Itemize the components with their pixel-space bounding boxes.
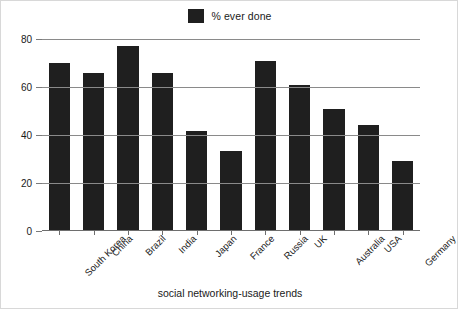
gridline-20 — [42, 183, 420, 184]
gridline-80 — [42, 39, 420, 40]
bar-south-korea[interactable] — [49, 63, 70, 231]
y-tick-mark-20 — [36, 183, 42, 184]
x-label-france: France — [248, 233, 277, 262]
y-tick-label-20: 20 — [6, 178, 32, 189]
x-label-japan: Japan — [212, 233, 238, 259]
y-tick-label-80: 80 — [6, 34, 32, 45]
legend-swatch-icon — [188, 9, 204, 23]
gridline-60 — [42, 87, 420, 88]
bar-brazil[interactable] — [117, 46, 138, 231]
bar-china[interactable] — [83, 73, 104, 231]
x-label-russia: Russia — [282, 233, 310, 261]
y-tick-label-40: 40 — [6, 130, 32, 141]
x-axis-category-labels: South KoreaChinaBrazilIndiaJapanFranceRu… — [42, 233, 420, 283]
y-tick-mark-80 — [36, 39, 42, 40]
y-tick-mark-60 — [36, 87, 42, 88]
x-label-germany: Germany — [422, 233, 457, 268]
bar-india[interactable] — [152, 73, 173, 231]
x-label-australia: Australia — [353, 233, 387, 267]
x-label-china: China — [109, 233, 134, 258]
x-label-brazil: Brazil — [143, 233, 168, 258]
legend-label: % ever done — [211, 10, 271, 22]
bar-japan[interactable] — [186, 131, 207, 231]
gridline-40 — [42, 135, 420, 136]
y-tick-mark-40 — [36, 135, 42, 136]
x-axis-title: social networking-usage trends — [1, 287, 458, 299]
bar-france[interactable] — [220, 151, 241, 231]
bar-uk[interactable] — [289, 85, 310, 231]
plot-area: 020406080 — [42, 39, 420, 231]
bar-australia[interactable] — [323, 109, 344, 231]
bar-usa[interactable] — [358, 125, 379, 231]
y-tick-label-60: 60 — [6, 82, 32, 93]
bar-germany[interactable] — [392, 161, 413, 231]
chart-legend: % ever done — [1, 9, 458, 23]
x-label-india: India — [176, 233, 198, 255]
y-tick-mark-0 — [36, 231, 42, 232]
chart-page: % ever done 020406080 South KoreaChinaBr… — [0, 0, 458, 309]
y-tick-label-0: 0 — [6, 226, 32, 237]
x-label-usa: USA — [382, 233, 404, 255]
x-label-uk: UK — [312, 233, 329, 250]
